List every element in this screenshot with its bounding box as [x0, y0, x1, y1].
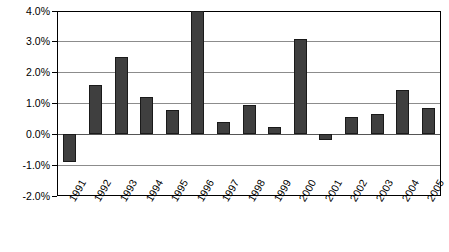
y-tick-label: -2.0%	[0, 191, 50, 202]
bar-1995	[166, 110, 179, 135]
bar-2000	[294, 39, 307, 135]
bar-2004	[396, 90, 409, 135]
x-axis-labels: 1991199219931994199519961997199819992000…	[57, 198, 441, 252]
bar-1996	[191, 11, 204, 134]
bar-1993	[115, 57, 128, 134]
bar-1997	[217, 122, 230, 134]
bar-1998	[243, 105, 256, 134]
chart-container: 4.0% 3.0% 2.0% 1.0% 0.0% -1.0% -2.0% 199…	[0, 0, 449, 252]
bar-2003	[371, 114, 384, 134]
y-tick-mark	[52, 196, 57, 197]
bar-2001	[319, 134, 332, 140]
y-tick-label: 4.0%	[0, 6, 50, 17]
y-tick-label: 0.0%	[0, 129, 50, 140]
bar-series	[57, 11, 441, 196]
bar-2002	[345, 117, 358, 134]
bar-1992	[89, 85, 102, 134]
y-tick-label: -1.0%	[0, 160, 50, 171]
y-tick-label: 1.0%	[0, 98, 50, 109]
y-tick-label: 2.0%	[0, 67, 50, 78]
bar-2005	[422, 108, 435, 134]
bar-1994	[140, 97, 153, 134]
bar-1991	[63, 134, 76, 162]
y-tick-label: 3.0%	[0, 36, 50, 47]
bar-1999	[268, 127, 281, 135]
